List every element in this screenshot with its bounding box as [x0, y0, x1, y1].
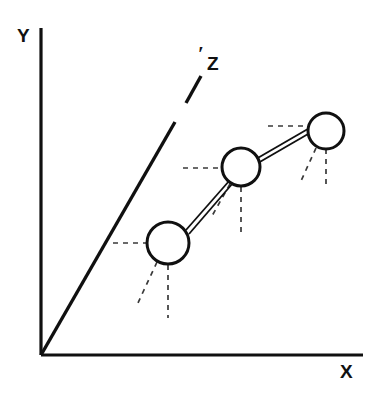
atom-2-circle — [222, 148, 260, 186]
z-axis-prime-mark: ′ — [198, 42, 204, 67]
z-axis-label: Z — [207, 53, 219, 75]
z-axis-segment-upper — [186, 76, 201, 103]
coordinate-diagram — [0, 0, 382, 395]
atom-1-ray-diagonal-icon — [137, 262, 157, 305]
bond-2-3-stroke-a — [256, 126, 313, 159]
figure-canvas: Y X ′ Z — [0, 0, 382, 395]
bond-2-3 — [256, 126, 315, 163]
atom-3-ray-diagonal-icon — [301, 148, 316, 181]
y-axis-label: Y — [17, 26, 30, 45]
bond-2-3-stroke-b — [258, 130, 315, 163]
atom-1-circle — [147, 222, 189, 264]
atom-3-circle — [308, 113, 344, 149]
x-axis-label: X — [340, 362, 353, 381]
